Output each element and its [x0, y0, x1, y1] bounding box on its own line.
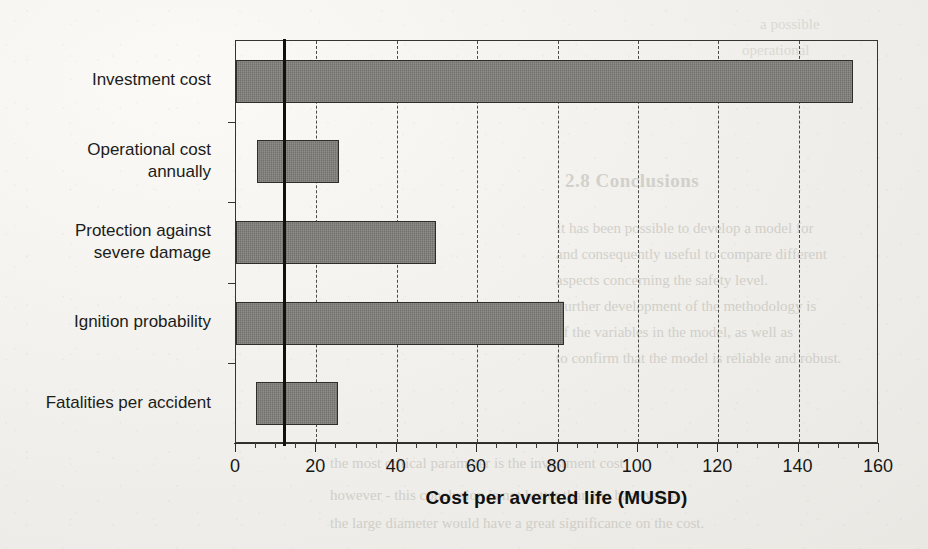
x-minor-tick-110 — [677, 443, 678, 448]
category-label-line: Ignition probability — [26, 311, 211, 333]
x-minor-tick-130 — [757, 443, 758, 448]
x-major-tick-160 — [878, 443, 879, 452]
x-minor-tick-95 — [617, 443, 618, 448]
category-label-line: Operational cost — [26, 139, 211, 161]
x-minor-tick-10 — [275, 443, 276, 448]
y-axis-tick-4 — [228, 363, 236, 364]
x-tick-label-120: 120 — [702, 456, 732, 477]
x-tick-label-140: 140 — [783, 456, 813, 477]
x-minor-tick-155 — [858, 443, 859, 448]
bar-protection-against-severe-damage — [236, 221, 436, 264]
x-tick-label-20: 20 — [305, 456, 325, 477]
x-minor-tick-75 — [536, 443, 537, 448]
x-minor-tick-115 — [697, 443, 698, 448]
bar-investment-cost — [236, 60, 853, 103]
category-label-line: Protection against — [26, 220, 211, 242]
x-major-tick-120 — [717, 443, 718, 452]
x-minor-tick-5 — [255, 443, 256, 448]
y-axis-tick-3 — [228, 283, 236, 284]
x-minor-tick-65 — [496, 443, 497, 448]
bar-operational-cost-annually — [257, 140, 339, 183]
category-label-line: Fatalities per accident — [26, 392, 211, 414]
x-tick-label-100: 100 — [622, 456, 652, 477]
x-tick-label-80: 80 — [546, 456, 566, 477]
x-major-tick-0 — [235, 443, 236, 452]
x-minor-tick-145 — [818, 443, 819, 448]
x-axis-tick-labels: 020406080100120140160 — [235, 456, 878, 480]
x-minor-tick-125 — [737, 443, 738, 448]
category-label-ignition-probability: Ignition probability — [26, 311, 211, 333]
x-tick-label-0: 0 — [230, 456, 240, 477]
x-minor-tick-35 — [376, 443, 377, 448]
x-major-tick-140 — [798, 443, 799, 452]
x-minor-tick-135 — [778, 443, 779, 448]
x-minor-tick-15 — [295, 443, 296, 448]
category-label-line: severe damage — [26, 242, 211, 264]
x-minor-tick-55 — [456, 443, 457, 448]
x-axis — [235, 443, 878, 457]
x-major-tick-60 — [476, 443, 477, 452]
category-label-protection-against-severe-damage: Protection againstsevere damage — [26, 220, 211, 264]
x-minor-tick-105 — [657, 443, 658, 448]
x-tick-label-160: 160 — [863, 456, 893, 477]
x-minor-tick-85 — [577, 443, 578, 448]
y-axis-tick-1 — [228, 122, 236, 123]
x-tick-label-60: 60 — [466, 456, 486, 477]
x-minor-tick-150 — [838, 443, 839, 448]
x-minor-tick-25 — [335, 443, 336, 448]
y-axis-category-labels: Investment costOperational costannuallyP… — [30, 40, 223, 443]
category-label-operational-cost-annually: Operational costannually — [26, 139, 211, 183]
x-axis-title: Cost per averted life (MUSD) — [235, 487, 878, 509]
x-minor-tick-70 — [516, 443, 517, 448]
x-minor-tick-50 — [436, 443, 437, 448]
plot-area — [235, 40, 878, 443]
x-major-tick-40 — [396, 443, 397, 452]
x-major-tick-20 — [315, 443, 316, 452]
x-major-tick-100 — [637, 443, 638, 452]
category-label-line: annually — [26, 161, 211, 183]
x-minor-tick-45 — [416, 443, 417, 448]
category-label-line: Investment cost — [26, 69, 211, 91]
x-major-tick-80 — [557, 443, 558, 452]
sensitivity-bar-chart: Investment costOperational costannuallyP… — [0, 0, 928, 549]
bar-series — [236, 41, 877, 442]
base-case-reference-line — [283, 39, 286, 446]
bar-fatalities-per-accident — [256, 382, 338, 425]
category-label-investment-cost: Investment cost — [26, 69, 211, 91]
x-tick-label-40: 40 — [386, 456, 406, 477]
x-minor-tick-30 — [356, 443, 357, 448]
category-label-fatalities-per-accident: Fatalities per accident — [26, 392, 211, 414]
x-minor-tick-90 — [597, 443, 598, 448]
y-axis-tick-2 — [228, 202, 236, 203]
